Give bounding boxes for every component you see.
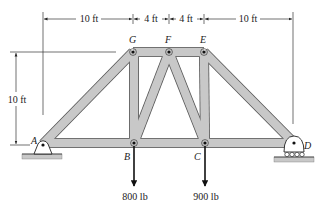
joint-label-c: C	[194, 151, 201, 162]
truss-figure: 10 ft 4 ft 4 ft 10 ft 10 ft	[0, 0, 324, 207]
dim-label-height: 10 ft	[8, 94, 27, 105]
extension-lines	[10, 12, 293, 145]
dim-label-fe: 4 ft	[179, 13, 193, 24]
dim-label-ed: 10 ft	[239, 13, 258, 24]
joint-g	[131, 50, 134, 53]
joint-label-b: B	[124, 151, 130, 162]
joint-label-e: E	[199, 34, 206, 45]
joint-label-f: F	[164, 34, 172, 45]
joint-a	[41, 143, 44, 146]
load-label-b: 800 lb	[122, 191, 147, 202]
joint-label-d: D	[303, 140, 312, 151]
joint-b	[132, 141, 135, 144]
dim-label-gf: 4 ft	[144, 13, 158, 24]
joint-label-a: A	[30, 135, 38, 146]
member-ag	[43, 52, 133, 144]
joint-label-g: G	[129, 34, 136, 45]
dim-label-ag: 10 ft	[80, 13, 99, 24]
joint-e	[202, 50, 205, 53]
joint-d	[292, 141, 295, 144]
member-fb	[134, 52, 169, 143]
load-label-c: 900 lb	[193, 191, 218, 202]
member-ed	[204, 52, 294, 143]
member-ec	[204, 52, 205, 143]
joint-f	[167, 50, 170, 53]
truss-members	[43, 52, 294, 144]
joint-c	[203, 141, 206, 144]
